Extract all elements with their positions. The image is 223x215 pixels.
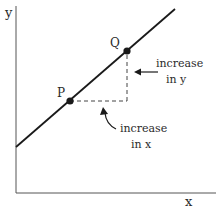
point-q-label: Q	[110, 36, 120, 50]
point-q	[123, 47, 130, 54]
increase-y-line1: increase	[156, 57, 203, 70]
increase-x-arrowhead-icon	[100, 107, 108, 115]
increase-y-line2: in y	[166, 73, 187, 86]
slope-diagram: y x P Q increase in y increase in x	[0, 0, 223, 215]
increase-x-line1: increase	[120, 122, 167, 135]
increase-x-line2: in x	[131, 138, 152, 151]
point-p-label: P	[57, 86, 65, 100]
y-axis-label: y	[4, 5, 13, 20]
point-p	[66, 97, 73, 104]
x-axis-label: x	[185, 194, 193, 209]
increase-y-arrowhead-icon	[134, 69, 141, 76]
diagram-canvas: y x P Q increase in y increase in x	[0, 0, 223, 215]
increase-x-arrow-shaft	[105, 113, 116, 129]
